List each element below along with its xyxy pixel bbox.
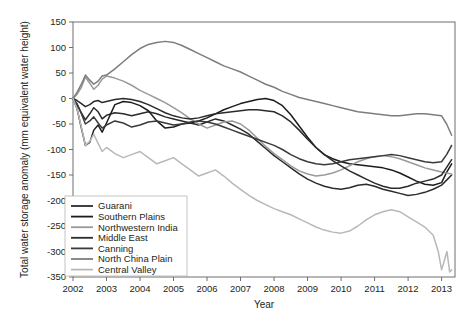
legend-label-canning: Canning (98, 243, 133, 254)
x-tick-label: 2009 (297, 283, 318, 294)
y-tick-label: -150 (47, 169, 66, 180)
x-tick-label: 2010 (330, 283, 351, 294)
x-tick-label: 2007 (230, 283, 251, 294)
x-tick-label: 2006 (196, 283, 217, 294)
x-tick-label: 2004 (129, 283, 150, 294)
y-tick-label: -300 (47, 246, 66, 257)
x-tick-label: 2012 (398, 283, 419, 294)
y-tick-label: -50 (52, 118, 66, 129)
y-tick-label: -250 (47, 220, 66, 231)
legend-label-central-valley: Central Valley (98, 264, 157, 275)
legend-label-north-china-plain: North China Plain (98, 253, 172, 264)
legend-label-guarani: Guarani (98, 200, 132, 211)
x-tick-label: 2002 (62, 283, 83, 294)
y-tick-label: -350 (47, 271, 66, 282)
y-axis-title: Total water storage anomaly (mm equivale… (19, 21, 30, 278)
x-tick-label: 2013 (431, 283, 452, 294)
y-tick-label: -200 (47, 195, 66, 206)
legend-label-southern-plains: Southern Plains (98, 211, 165, 222)
x-tick-label: 2003 (96, 283, 117, 294)
x-axis-title: Year (254, 299, 275, 310)
y-tick-label: -100 (47, 144, 66, 155)
x-tick-label: 2005 (163, 283, 184, 294)
y-tick-label: 50 (55, 67, 66, 78)
line-chart-canvas: 150100500-50-100-150-200-250-300-3502002… (0, 0, 474, 320)
y-tick-label: 0 (61, 93, 66, 104)
y-tick-label: 150 (50, 16, 66, 27)
legend-label-northwestern-india: Northwestern India (98, 222, 178, 233)
chart-figure: 150100500-50-100-150-200-250-300-3502002… (0, 0, 474, 320)
x-tick-label: 2011 (364, 283, 384, 294)
y-tick-label: 100 (50, 42, 66, 53)
x-tick-label: 2008 (263, 283, 284, 294)
legend-label-middle-east: Middle East (98, 232, 148, 243)
